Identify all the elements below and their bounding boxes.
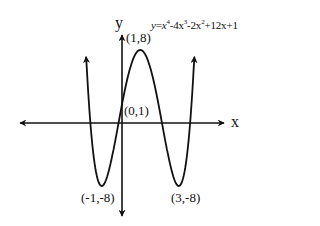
equation-term: +12x+1 bbox=[204, 19, 237, 31]
equation-term: -2x bbox=[187, 19, 201, 31]
quartic-curve bbox=[86, 50, 194, 186]
equation-term: -4x bbox=[170, 19, 184, 31]
min-right-point-label: (3,-8) bbox=[171, 191, 200, 204]
y-axis-label: y bbox=[115, 15, 123, 31]
x-axis-label: x bbox=[231, 114, 239, 130]
intercept-point-label: (0,1) bbox=[124, 104, 149, 117]
max-point-label: (1,8) bbox=[126, 31, 151, 44]
equation-label: y=x4-4x3-2x2+12x+1 bbox=[151, 20, 238, 31]
min-left-point-label: (-1,-8) bbox=[81, 191, 115, 204]
